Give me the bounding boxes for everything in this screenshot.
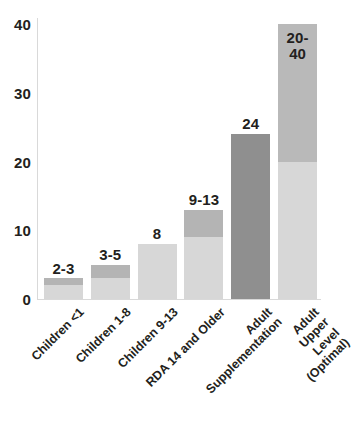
bar[interactable]: 20- 40 <box>278 24 317 299</box>
bar-segment-range-lower <box>44 285 83 299</box>
bar-group: 8 <box>138 0 177 310</box>
bar[interactable]: 3-5 <box>91 265 130 299</box>
bar-group: 24 <box>231 0 270 310</box>
bar-segment-value <box>138 244 177 299</box>
bar-group: 3-5 <box>91 0 130 310</box>
bar-segment-range-upper <box>44 278 83 285</box>
bar[interactable]: 2-3 <box>44 278 83 299</box>
bar-group: 20- 40 <box>278 0 317 310</box>
bar[interactable]: 9-13 <box>184 210 223 299</box>
bar-segment-range-lower <box>91 278 130 299</box>
bar[interactable]: 24 <box>231 134 270 299</box>
plot-area: 403020100 2-33-589-132420- 40 <box>0 0 328 310</box>
bar-segment-range-upper <box>91 265 130 279</box>
bars-layer: 2-33-589-132420- 40 <box>0 0 328 310</box>
bar-group: 9-13 <box>184 0 223 310</box>
bar-value-label: 8 <box>138 226 177 242</box>
bar-value-label: 20- 40 <box>278 30 317 62</box>
bar-value-label: 24 <box>231 116 270 132</box>
bar-segment-value <box>231 134 270 299</box>
bar-group: 2-3 <box>44 0 83 310</box>
bar-segment-range-upper <box>184 210 223 238</box>
x-axis-label-5: Adult Upper Level (Optimal) <box>273 305 352 384</box>
x-axis-category-labels: Children <1Children 1-8Children 9-13RDA … <box>0 305 328 441</box>
bar-value-label: 9-13 <box>184 192 223 208</box>
bar-value-label: 2-3 <box>44 261 83 277</box>
bar[interactable]: 8 <box>138 244 177 299</box>
bar-segment-range-lower <box>184 237 223 299</box>
bar-value-label: 3-5 <box>91 247 130 263</box>
bar-segment-range-lower <box>278 162 317 300</box>
